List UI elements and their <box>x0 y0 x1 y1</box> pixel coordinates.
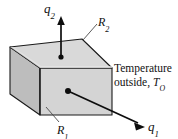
temperature-line2-prefix: outside, <box>114 76 153 88</box>
r1-label: R1 <box>57 124 68 136</box>
q1-label: q1 <box>148 120 159 133</box>
temperature-outside-label: Temperatureoutside, TO <box>114 62 178 89</box>
temperature-line1: Temperature <box>114 62 172 74</box>
temperature-symbol: TO <box>153 76 165 88</box>
q2-label: q2 <box>44 2 55 15</box>
r2-label: R2 <box>98 16 109 28</box>
r2-leader-line <box>83 24 97 40</box>
heat-flux-slab-figure: q2 q1 R2 R1 Temperatureoutside, TO <box>0 0 178 139</box>
q2-arrow-head <box>57 16 65 25</box>
q1-arrow-head <box>134 123 145 131</box>
slab-front-face <box>40 68 112 115</box>
